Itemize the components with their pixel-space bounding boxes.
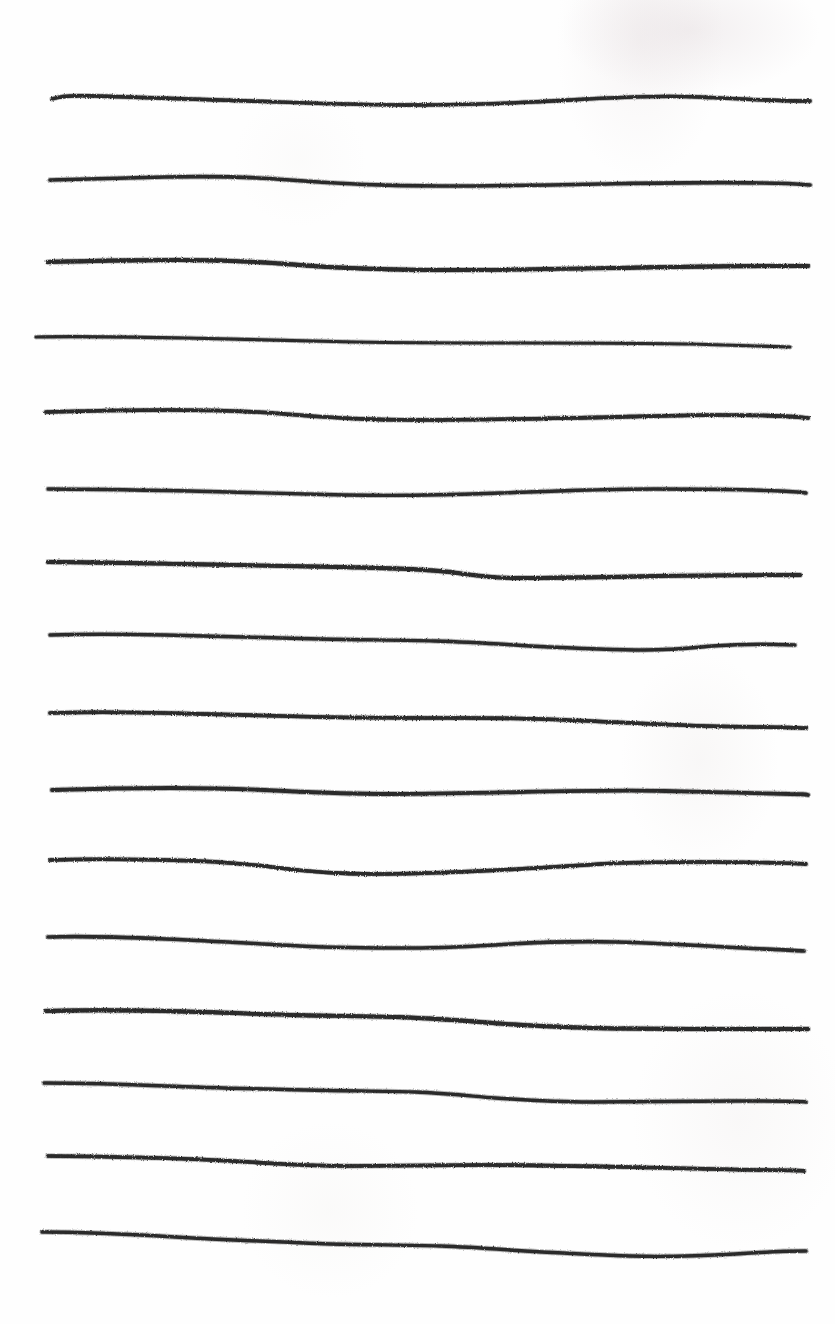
paper-sheet (0, 0, 835, 1324)
rule-line-8 (50, 634, 795, 650)
ink-stroke-layer (0, 0, 835, 1324)
rule-line-3 (48, 260, 808, 270)
stroke-group (36, 96, 810, 1257)
rule-line-12 (48, 937, 804, 951)
rule-line-5 (46, 410, 808, 420)
rule-line-7 (48, 562, 800, 578)
